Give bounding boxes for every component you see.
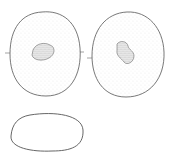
specimen-left [5,12,84,96]
specimen-right [87,12,164,97]
illustration [0,0,170,155]
specimen-side-view [11,114,83,152]
